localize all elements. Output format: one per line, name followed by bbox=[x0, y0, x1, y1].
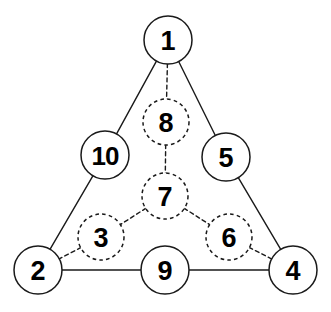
node-label-9: 9 bbox=[157, 256, 172, 286]
node-3[interactable]: 3 bbox=[78, 214, 124, 260]
edge-3-2 bbox=[59, 247, 81, 259]
node-7[interactable]: 7 bbox=[142, 173, 188, 219]
node-label-10: 10 bbox=[92, 141, 119, 171]
diagram-canvas: 11052948736 bbox=[0, 0, 331, 312]
node-10[interactable]: 10 bbox=[81, 131, 129, 179]
node-label-4: 4 bbox=[285, 256, 300, 286]
node-label-5: 5 bbox=[218, 143, 233, 173]
node-6[interactable]: 6 bbox=[206, 214, 252, 260]
node-5[interactable]: 5 bbox=[202, 133, 250, 181]
node-9[interactable]: 9 bbox=[141, 246, 189, 294]
node-2[interactable]: 2 bbox=[14, 246, 62, 294]
node-label-3: 3 bbox=[93, 223, 108, 253]
edge-7-3 bbox=[120, 208, 146, 225]
node-4[interactable]: 4 bbox=[269, 246, 317, 294]
node-label-1: 1 bbox=[160, 26, 175, 56]
node-label-7: 7 bbox=[157, 182, 172, 212]
node-8[interactable]: 8 bbox=[143, 99, 189, 145]
edge-7-6 bbox=[184, 208, 210, 225]
node-label-6: 6 bbox=[221, 223, 236, 253]
node-label-8: 8 bbox=[158, 108, 173, 138]
node-label-2: 2 bbox=[30, 256, 45, 286]
node-1[interactable]: 1 bbox=[144, 16, 192, 64]
edge-1-8 bbox=[167, 63, 168, 99]
edge-6-4 bbox=[249, 247, 272, 259]
triangle-node-diagram: 11052948736 bbox=[0, 0, 331, 312]
